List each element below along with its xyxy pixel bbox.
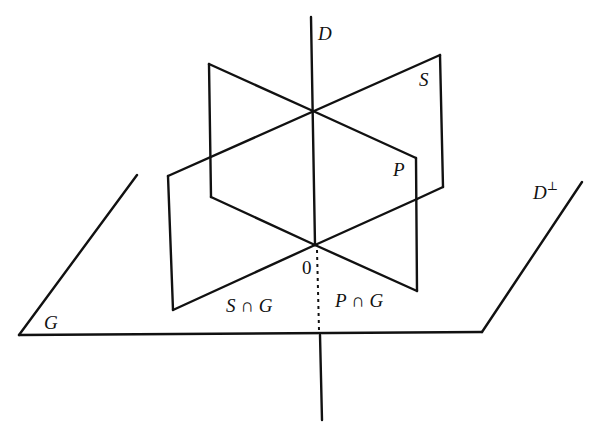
plane-g-front-edge xyxy=(19,332,482,335)
line-d-lower xyxy=(320,335,322,420)
label-p-cap-g: P ∩ G xyxy=(335,291,383,310)
plane-p-right-edge xyxy=(416,158,417,291)
label-d-perp-sup: ⊥ xyxy=(547,179,558,193)
line-d-hidden-dashed xyxy=(317,250,319,330)
label-s: S xyxy=(419,70,429,89)
plane-p-bottom-edge xyxy=(315,245,417,291)
label-g: G xyxy=(44,313,58,332)
label-origin: 0 xyxy=(302,258,312,277)
plane-p-top-edge-2 xyxy=(313,111,416,158)
label-p: P xyxy=(393,160,405,179)
line-d-upper xyxy=(311,17,315,245)
plane-s-right-edge xyxy=(440,55,443,187)
plane-p-top-edge xyxy=(209,64,313,111)
plane-p-lower-left xyxy=(211,197,315,245)
label-d-perp-base: D xyxy=(533,182,547,203)
plane-g-right-edge xyxy=(482,182,582,332)
figure-canvas: D S P D⊥ 0 G S ∩ G P ∩ G xyxy=(0,0,604,438)
label-s-cap-g: S ∩ G xyxy=(226,296,272,315)
plane-p-left-edge xyxy=(209,64,211,197)
label-d: D xyxy=(318,24,332,43)
diagram-svg xyxy=(0,0,604,438)
label-d-perp: D⊥ xyxy=(533,183,558,202)
plane-g-left-edge xyxy=(19,175,137,335)
plane-s-mid xyxy=(315,199,417,245)
plane-s-inner-edge xyxy=(417,187,443,199)
plane-s-left-edge xyxy=(168,176,173,310)
